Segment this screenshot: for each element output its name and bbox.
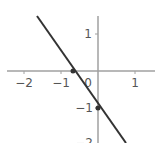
x-intercept-point bbox=[71, 69, 76, 74]
y-intercept-point bbox=[96, 106, 101, 111]
chart-canvas: −2 −1 0 1 1 −1 −2 bbox=[0, 0, 155, 143]
y-tick-label: −1 bbox=[75, 101, 93, 115]
x-tick-label: −2 bbox=[15, 76, 33, 90]
x-tick-label: 1 bbox=[131, 76, 139, 90]
x-tick-label: −1 bbox=[52, 76, 70, 90]
function-line bbox=[37, 16, 126, 143]
y-tick-label: 1 bbox=[84, 27, 92, 41]
y-tick-label: −2 bbox=[75, 136, 93, 143]
